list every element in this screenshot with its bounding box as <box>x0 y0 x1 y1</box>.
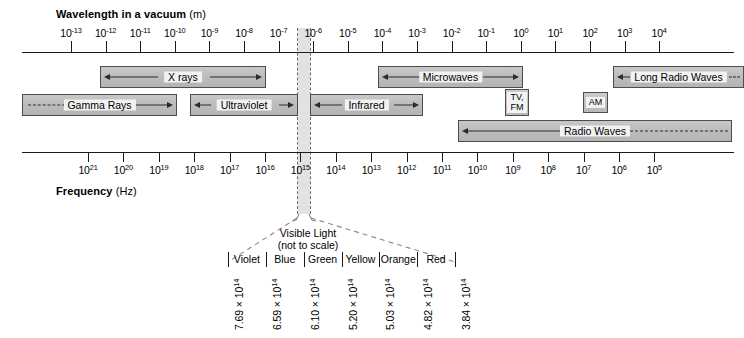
band-rule-left <box>468 131 562 132</box>
visible-light-color-label: Green <box>308 253 337 265</box>
frequency-tick-label: 1018 <box>185 164 204 176</box>
frequency-tick <box>300 152 301 162</box>
frequency-tick-label: 1019 <box>149 164 168 176</box>
wavelength-tick-label: 10-7 <box>270 27 287 39</box>
band-arrow-left-icon <box>194 102 200 108</box>
frequency-tick <box>477 152 478 162</box>
frequency-tick-label: 106 <box>611 164 626 176</box>
wavelength-tick <box>486 41 487 52</box>
wavelength-tick <box>140 41 141 52</box>
wavelength-tick-label: 101 <box>548 27 563 39</box>
frequency-tick-label: 108 <box>541 164 556 176</box>
wavelength-tick <box>590 41 591 52</box>
frequency-tick-label: 1017 <box>220 164 239 176</box>
visible-light-strip-right-edge <box>310 28 311 214</box>
visible-light-boundary-tick <box>417 252 418 267</box>
frequency-tick-label: 1016 <box>255 164 274 176</box>
wavelength-tick <box>555 41 556 52</box>
broadcast-chip: TV, FM <box>505 89 529 116</box>
visible-light-color-label: Orange <box>381 253 416 265</box>
wavelength-tick <box>106 41 107 52</box>
wavelength-tick-label: 102 <box>582 27 597 39</box>
frequency-tick <box>336 152 337 162</box>
visible-light-color-label: Blue <box>274 253 295 265</box>
band-rule-left <box>388 77 421 78</box>
wavelength-tick-label: 10-9 <box>201 27 218 39</box>
wavelength-tick-label: 10-5 <box>339 27 356 39</box>
spectrum-band: Ultraviolet <box>190 94 298 116</box>
band-label: Long Radio Waves <box>630 72 726 83</box>
chip-label: AM <box>586 97 606 109</box>
electromagnetic-spectrum-figure: Wavelength in a vacuum (m) 10-1310-1210-… <box>0 0 744 338</box>
visible-light-boundary-tick <box>342 252 343 267</box>
visible-light-highlight-strip <box>298 28 310 214</box>
frequency-tick-label: 1012 <box>397 164 416 176</box>
wavelength-tick <box>209 41 210 52</box>
frequency-tick-label: 1013 <box>362 164 381 176</box>
visible-light-color-label: Red <box>426 253 445 265</box>
band-label: Microwaves <box>419 72 482 83</box>
wavelength-tick <box>175 41 176 52</box>
wavelength-tick-label: 10-11 <box>130 27 151 39</box>
band-arrow-left-icon <box>104 74 110 80</box>
frequency-tick <box>371 152 372 162</box>
broadcast-chip: AM <box>583 92 608 113</box>
frequency-tick-label: 1021 <box>78 164 97 176</box>
frequency-tick <box>159 152 160 162</box>
wavelength-axis-unit: (m) <box>189 8 206 20</box>
wavelength-axis-title: Wavelength in a vacuum (m) <box>56 8 206 20</box>
visible-light-strip-left-edge <box>297 28 298 214</box>
frequency-tick-label: 1020 <box>114 164 133 176</box>
wavelength-tick-label: 10-13 <box>60 27 81 39</box>
band-rule-right <box>394 105 416 106</box>
frequency-tick <box>194 152 195 162</box>
frequency-axis-title: Frequency (Hz) <box>56 185 137 197</box>
wavelength-tick <box>452 41 453 52</box>
visible-light-boundary-tick <box>266 252 267 267</box>
visible-light-color-label: Violet <box>234 253 260 265</box>
visible-light-boundary-frequency: 6.59 × 1014 <box>271 279 283 330</box>
band-arrow-right-icon <box>256 74 262 80</box>
frequency-axis-line <box>22 152 734 153</box>
wavelength-tick <box>625 41 626 52</box>
wavelength-tick-label: 104 <box>652 27 667 39</box>
wavelength-tick-label: 10-1 <box>477 27 494 39</box>
wavelength-tick-label: 10-6 <box>304 27 321 39</box>
frequency-tick <box>619 152 620 162</box>
spectrum-band: Gamma Rays <box>22 94 177 116</box>
visible-light-boundary-tick <box>228 252 229 267</box>
band-rule-right <box>132 105 170 106</box>
wavelength-tick <box>382 41 383 52</box>
visible-light-boundary-frequency: 3.84 × 1014 <box>460 279 472 330</box>
band-arrow-left-icon <box>382 74 388 80</box>
band-rule-left <box>110 77 158 78</box>
band-rule-right <box>630 131 728 132</box>
visible-light-detail-title: Visible Light (not to scale) <box>278 227 339 251</box>
band-rule-left <box>200 105 211 106</box>
spectrum-band: Radio Waves <box>458 120 732 142</box>
frequency-tick-label: 107 <box>576 164 591 176</box>
frequency-tick <box>88 152 89 162</box>
wavelength-tick-label: 10-4 <box>374 27 391 39</box>
frequency-axis-unit: (Hz) <box>116 185 137 197</box>
band-label: X rays <box>164 72 202 83</box>
spectrum-band: X rays <box>100 66 266 88</box>
band-rule-right <box>210 77 258 78</box>
visible-light-boundary-frequency: 7.69 × 1014 <box>233 279 245 330</box>
band-arrow-right-icon <box>288 102 294 108</box>
frequency-tick <box>442 152 443 162</box>
frequency-tick <box>513 152 514 162</box>
frequency-tick <box>584 152 585 162</box>
frequency-tick-label: 105 <box>647 164 662 176</box>
visible-light-boundary-tick <box>304 252 305 267</box>
wavelength-tick <box>279 41 280 52</box>
wavelength-tick-label: 10-3 <box>408 27 425 39</box>
band-rule-left <box>320 105 342 106</box>
band-arrow-left-icon <box>462 128 468 134</box>
frequency-axis-title-text: Frequency <box>56 185 113 197</box>
wavelength-axis-line <box>22 52 734 53</box>
visible-light-boundary-frequency: 5.20 × 1014 <box>347 279 359 330</box>
band-rule-right <box>729 77 740 78</box>
spectrum-band: Long Radio Waves <box>613 66 744 88</box>
wavelength-tick <box>348 41 349 52</box>
